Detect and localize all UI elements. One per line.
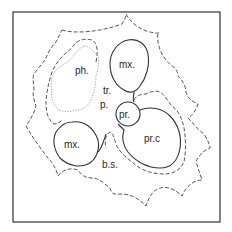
label-tracheid: tr. — [103, 85, 111, 96]
phloem-sheath-outline — [46, 39, 97, 124]
outer-bundle-outline — [26, 14, 210, 206]
diagram-canvas: ph. mx. tr. p. pr. pr.c mx. b.s. — [0, 0, 232, 232]
label-bundle-sheath: b.s. — [102, 159, 118, 170]
label-protoxylem: pr. — [119, 109, 130, 120]
metaxylem-top-stem — [133, 92, 134, 102]
phloem-outline — [51, 46, 99, 112]
label-phloem: ph. — [75, 65, 89, 76]
label-metaxylem-top: mx. — [119, 59, 135, 70]
label-parenchyma: p. — [100, 99, 108, 110]
label-metaxylem-bottom: mx. — [64, 139, 80, 150]
vascular-bundle-figure: ph. mx. tr. p. pr. pr.c mx. b.s. — [0, 0, 232, 232]
label-protoxylem-cavity: pr.c — [144, 133, 160, 144]
